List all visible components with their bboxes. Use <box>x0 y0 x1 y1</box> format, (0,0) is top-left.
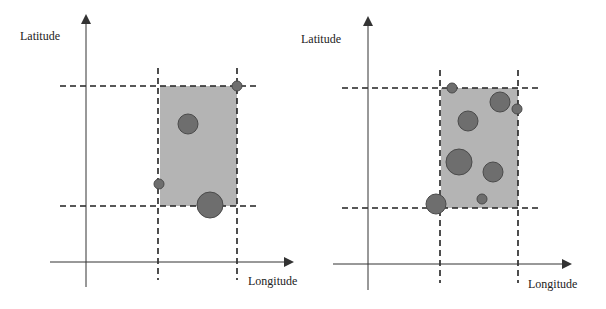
data-point-circle <box>178 114 198 134</box>
panel-left: Latitude Longitude <box>20 16 297 288</box>
data-point-circle <box>477 194 487 204</box>
data-point-circle <box>512 104 522 114</box>
y-axis-label-right: Latitude <box>301 32 341 46</box>
data-point-circle <box>483 162 503 182</box>
data-point-circle <box>154 179 164 189</box>
data-point-circle <box>447 83 457 93</box>
data-point-circle <box>232 81 242 91</box>
data-point-circle <box>446 149 472 175</box>
x-axis-label-left: Longitude <box>248 274 297 288</box>
y-axis-label-left: Latitude <box>20 29 60 43</box>
data-point-circle <box>458 111 478 131</box>
panel-right: Latitude Longitude <box>301 18 577 291</box>
diagram-canvas: Latitude Longitude Latitude Longitude <box>0 0 606 309</box>
query-region <box>160 86 237 206</box>
data-point-circle <box>426 194 446 214</box>
x-axis-label-right: Longitude <box>528 277 577 291</box>
data-point-circle <box>197 192 223 218</box>
data-point-circle <box>490 92 510 112</box>
region-layer-left <box>160 86 237 206</box>
